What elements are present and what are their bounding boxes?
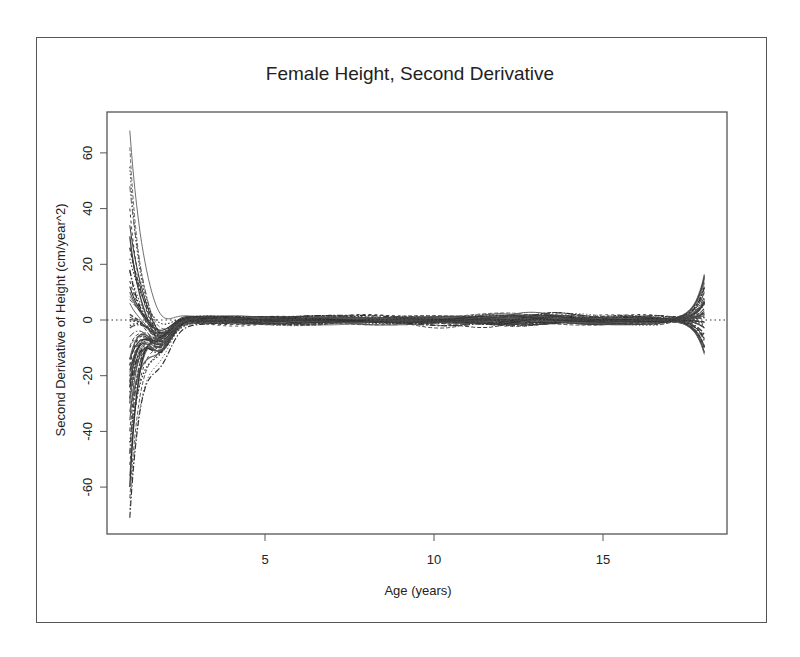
y-tick-label: -60	[80, 478, 95, 497]
series-curve	[130, 131, 705, 322]
chart: Female Height, Second Derivative 51015 -…	[0, 0, 800, 657]
series-curve	[130, 318, 705, 404]
series-curve	[130, 147, 705, 328]
series-curve	[130, 275, 705, 336]
series-curve	[130, 318, 705, 487]
series-curve	[130, 186, 705, 335]
chart-title: Female Height, Second Derivative	[266, 63, 554, 84]
series-curve	[130, 316, 705, 443]
series-curve	[130, 301, 705, 360]
y-tick-label: 40	[80, 201, 95, 215]
series-curve	[130, 298, 705, 383]
series-curve	[130, 317, 705, 393]
x-axis-label: Age (years)	[384, 583, 451, 598]
series-curve	[130, 317, 705, 387]
y-axis-label: Second Derivative of Height (cm/year^2)	[53, 204, 68, 437]
y-tick-label: -20	[80, 366, 95, 385]
series-curve	[130, 281, 705, 345]
series-curve	[130, 292, 705, 382]
y-axis: -60-40-200204060	[80, 146, 107, 497]
series-curve	[130, 287, 705, 465]
series-curve	[130, 286, 705, 336]
x-axis: 51015	[261, 534, 610, 567]
series-curve	[130, 317, 705, 399]
x-tick-label: 15	[596, 552, 610, 567]
y-tick-label: 20	[80, 257, 95, 271]
y-tick-label: 60	[80, 146, 95, 160]
series-curve	[130, 313, 705, 454]
x-tick-label: 5	[261, 552, 268, 567]
series-curve	[130, 315, 705, 412]
series-curve	[130, 259, 705, 324]
y-tick-label: -40	[80, 422, 95, 441]
series-curve	[130, 279, 705, 476]
series-curve	[130, 318, 705, 398]
series-curve	[130, 313, 705, 498]
data-curves	[130, 131, 705, 518]
x-tick-label: 10	[427, 552, 441, 567]
y-tick-label: 0	[80, 316, 95, 323]
series-curve	[130, 167, 705, 333]
series-curve	[130, 283, 705, 403]
